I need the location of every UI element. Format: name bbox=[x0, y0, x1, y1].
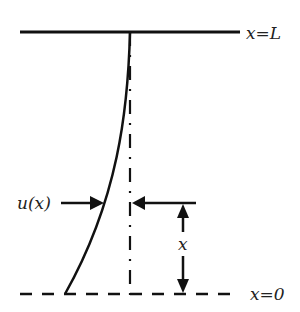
label-deflection: u(x) bbox=[17, 193, 51, 213]
arrowhead-up-icon bbox=[177, 204, 189, 218]
arrowhead-down-icon bbox=[177, 279, 189, 293]
label-height: x bbox=[178, 234, 188, 254]
deflection-curve bbox=[65, 32, 130, 294]
label-x-equals-0: x=0 bbox=[250, 284, 285, 304]
diagram-canvas: x=L x=0 u(x) x bbox=[0, 0, 300, 312]
label-x-equals-L: x=L bbox=[246, 23, 281, 43]
arrowhead-left-icon bbox=[132, 196, 145, 210]
